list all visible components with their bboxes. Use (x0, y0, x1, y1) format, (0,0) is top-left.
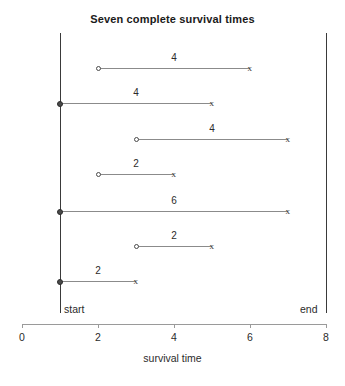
x-axis-tick (174, 324, 175, 328)
filled-circle-icon (57, 279, 63, 285)
segment-line (98, 174, 174, 175)
x-axis-tick-label: 8 (316, 332, 336, 343)
x-axis-tick (326, 324, 327, 328)
x-marker-icon: x (134, 277, 139, 286)
reference-line-label-end: end (300, 304, 318, 315)
survival-times-chart: Seven complete survival times startendx4… (0, 0, 345, 386)
segment-duration-label: 4 (124, 88, 148, 98)
segment-line (136, 246, 212, 247)
x-marker-icon: x (286, 135, 291, 144)
segment-line (136, 139, 288, 140)
x-axis-tick-label: 4 (164, 332, 184, 343)
segment-line (60, 211, 288, 212)
x-marker-icon: x (210, 99, 215, 108)
reference-line-label-start: start (64, 304, 84, 315)
open-circle-icon (134, 244, 139, 249)
filled-circle-icon (57, 101, 63, 107)
x-axis-tick-label: 2 (88, 332, 108, 343)
segment-duration-label: 6 (162, 196, 186, 206)
x-axis-tick (22, 324, 23, 328)
segment-duration-label: 2 (86, 266, 110, 276)
x-marker-icon: x (286, 207, 291, 216)
open-circle-icon (96, 172, 101, 177)
segment-duration-label: 2 (162, 231, 186, 241)
x-marker-icon: x (210, 242, 215, 251)
open-circle-icon (134, 137, 139, 142)
chart-title: Seven complete survival times (0, 13, 345, 25)
x-axis-tick-label: 0 (12, 332, 32, 343)
filled-circle-icon (57, 209, 63, 215)
x-marker-icon: x (248, 64, 253, 73)
x-axis-tick-label: 6 (240, 332, 260, 343)
segment-duration-label: 2 (124, 159, 148, 169)
x-marker-icon: x (172, 170, 177, 179)
x-axis-title: survival time (0, 352, 345, 364)
segment-line (98, 68, 250, 69)
segment-line (60, 103, 212, 104)
reference-line-end (326, 33, 327, 313)
x-axis-tick (98, 324, 99, 328)
segment-duration-label: 4 (200, 124, 224, 134)
segment-line (60, 281, 136, 282)
open-circle-icon (96, 66, 101, 71)
x-axis-tick (250, 324, 251, 328)
segment-duration-label: 4 (162, 53, 186, 63)
reference-line-start (60, 33, 61, 313)
